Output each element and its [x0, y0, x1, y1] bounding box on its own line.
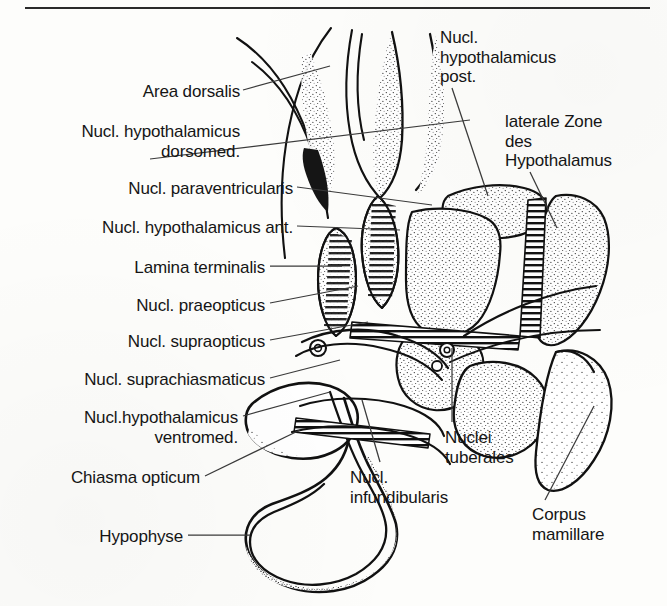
label-nucl-hypo-post: Nucl.hypothalamicuspost.	[440, 28, 640, 87]
label-chiasma-opticum: Chiasma opticum	[10, 468, 200, 488]
label-nucl-hypo-post-line-1: Nucl.	[440, 28, 640, 48]
label-laterale-zone: laterale ZonedesHypothalamus	[505, 112, 665, 171]
label-nucl-hypo-ant-line-1: Nucl. hypothalamicus ant.	[10, 218, 293, 238]
label-area-dorsalis-line-1: Area dorsalis	[10, 82, 240, 102]
label-nucl-hypo-ventromed-line-1: Nucl.hypothalamicus	[10, 408, 238, 428]
label-lamina-terminalis: Lamina terminalis	[10, 258, 265, 278]
label-corpus-mamillare-line-1: Corpus	[532, 505, 667, 525]
label-nucl-hypo-dorsomed-line-1: Nucl. hypothalamicus	[10, 122, 240, 142]
label-lamina-terminalis-line-1: Lamina terminalis	[10, 258, 265, 278]
leader-nucl-hypo-post	[452, 88, 488, 196]
label-nuclei-tuberales-line-1: Nuclei	[445, 428, 575, 448]
label-nucl-supraopticus-line-1: Nucl. supraopticus	[10, 332, 265, 352]
label-area-dorsalis: Area dorsalis	[10, 82, 240, 102]
label-nucl-praeopticus-line-1: Nucl. praeopticus	[10, 296, 265, 316]
label-nucl-hypo-dorsomed-line-2: dorsomed.	[10, 142, 240, 162]
label-corpus-mamillare-line-2: mamillare	[532, 525, 667, 545]
label-nuclei-tuberales: Nucleituberales	[445, 428, 575, 467]
label-laterale-zone-line-1: laterale Zone	[505, 112, 665, 132]
label-nucl-suprachiasmaticus: Nucl. suprachiasmaticus	[10, 370, 265, 390]
label-nucl-hypo-dorsomed: Nucl. hypothalamicusdorsomed.	[10, 122, 240, 161]
label-laterale-zone-line-2: des	[505, 132, 665, 152]
label-nucl-infundibularis: Nucl.infundibularis	[350, 468, 495, 507]
top-rule-divider	[25, 7, 650, 9]
label-nucl-hypo-ventromed-line-2: ventromed.	[10, 428, 238, 448]
label-hypophyse: Hypophyse	[10, 527, 183, 547]
label-chiasma-opticum-line-1: Chiasma opticum	[10, 468, 200, 488]
label-laterale-zone-line-3: Hypothalamus	[505, 151, 665, 171]
label-nucl-supraopticus: Nucl. supraopticus	[10, 332, 265, 352]
label-nucl-infundibularis-line-2: infundibularis	[350, 488, 495, 508]
label-corpus-mamillare: Corpusmamillare	[532, 505, 667, 544]
label-nucl-hypo-post-line-3: post.	[440, 67, 640, 87]
label-nucl-praeopticus: Nucl. praeopticus	[10, 296, 265, 316]
anatomy-figure: Area dorsalisNucl. hypothalamicusdorsome…	[0, 0, 667, 606]
label-nucl-hypo-ant: Nucl. hypothalamicus ant.	[10, 218, 293, 238]
leader-nucl-suprachiasmaticus	[270, 360, 340, 378]
label-nucl-hypo-ventromed: Nucl.hypothalamicusventromed.	[10, 408, 238, 447]
label-nucl-paraventricularis-line-1: Nucl. paraventricularis	[10, 179, 293, 199]
label-nuclei-tuberales-line-2: tuberales	[445, 448, 575, 468]
label-nucl-hypo-post-line-2: hypothalamicus	[440, 48, 640, 68]
label-nucl-paraventricularis: Nucl. paraventricularis	[10, 179, 293, 199]
label-hypophyse-line-1: Hypophyse	[10, 527, 183, 547]
label-nucl-infundibularis-line-1: Nucl.	[350, 468, 495, 488]
label-nucl-suprachiasmaticus-line-1: Nucl. suprachiasmaticus	[10, 370, 265, 390]
